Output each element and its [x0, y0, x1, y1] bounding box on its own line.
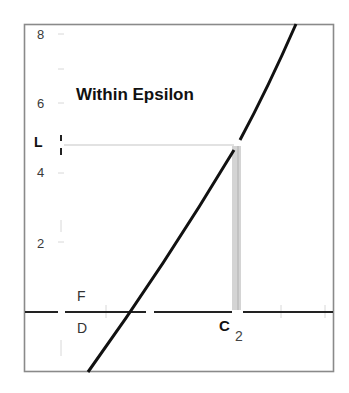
region-label-f: F	[77, 289, 86, 303]
y-tick-marks	[58, 34, 325, 356]
region-label-d: D	[77, 321, 87, 335]
y-tick-label-8: 8	[37, 28, 44, 41]
diagram-title: Within Epsilon	[76, 86, 194, 103]
plot-frame	[25, 25, 334, 372]
y-tick-label-6: 6	[37, 97, 44, 110]
y-tick-label-2: 2	[37, 237, 44, 250]
function-curve	[88, 24, 296, 372]
point-label-c: C	[219, 318, 230, 333]
diagram-canvas	[0, 0, 349, 393]
epsilon-diagram: 8 6 L 4 2 Within Epsilon F D C 2	[0, 0, 349, 393]
epsilon-band	[232, 146, 241, 310]
point-label-subscript: 2	[235, 329, 243, 343]
limit-label: L	[34, 135, 43, 149]
y-tick-label-4: 4	[37, 166, 44, 179]
